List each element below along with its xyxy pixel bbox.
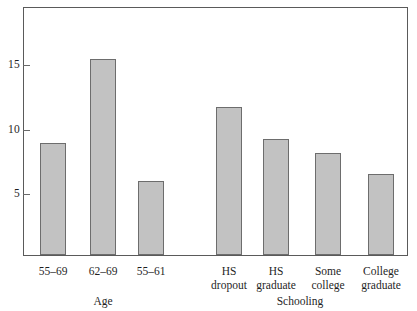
y-tick-mark-5 [23, 194, 30, 195]
category-label-line1: 62–69 [89, 265, 118, 277]
category-label-line1: College [363, 265, 399, 277]
category-label-line1: Some [315, 265, 341, 277]
bar-schooling-college-graduate [368, 174, 394, 255]
category-label-age-55-61: 55–61 [118, 265, 184, 279]
bar-schooling-hs-dropout [216, 107, 242, 255]
category-label-line1: HS [222, 265, 237, 277]
bar-schooling-some-college [315, 153, 341, 255]
category-label-line2: graduate [346, 279, 416, 293]
y-tick-label-5-wrap: 5 [0, 188, 20, 200]
group-label-age: Age [70, 295, 136, 308]
category-label-line1: HS [269, 265, 284, 277]
y-tick-label-15: 15 [0, 59, 20, 71]
bar-age-62-69 [90, 59, 116, 255]
category-label-line1: 55–61 [137, 265, 166, 277]
bar-chart-figure: 15 10 5 55–69 62–69 55–61 HS dropout HS … [0, 0, 417, 311]
bar-age-55-69 [40, 143, 66, 255]
group-label-schooling: Schooling [265, 295, 335, 308]
category-label-line1: 55–69 [39, 265, 68, 277]
y-tick-mark-15 [23, 65, 30, 66]
bar-schooling-hs-graduate [263, 139, 289, 255]
y-tick-label-10-wrap: 10 [0, 124, 20, 136]
category-label-college-graduate: College graduate [346, 265, 416, 292]
y-tick-label-15-wrap: 15 [0, 59, 20, 71]
y-tick-mark-10 [23, 130, 30, 131]
y-tick-label-5: 5 [0, 188, 20, 200]
bar-age-55-61 [138, 181, 164, 255]
y-tick-label-10: 10 [0, 124, 20, 136]
